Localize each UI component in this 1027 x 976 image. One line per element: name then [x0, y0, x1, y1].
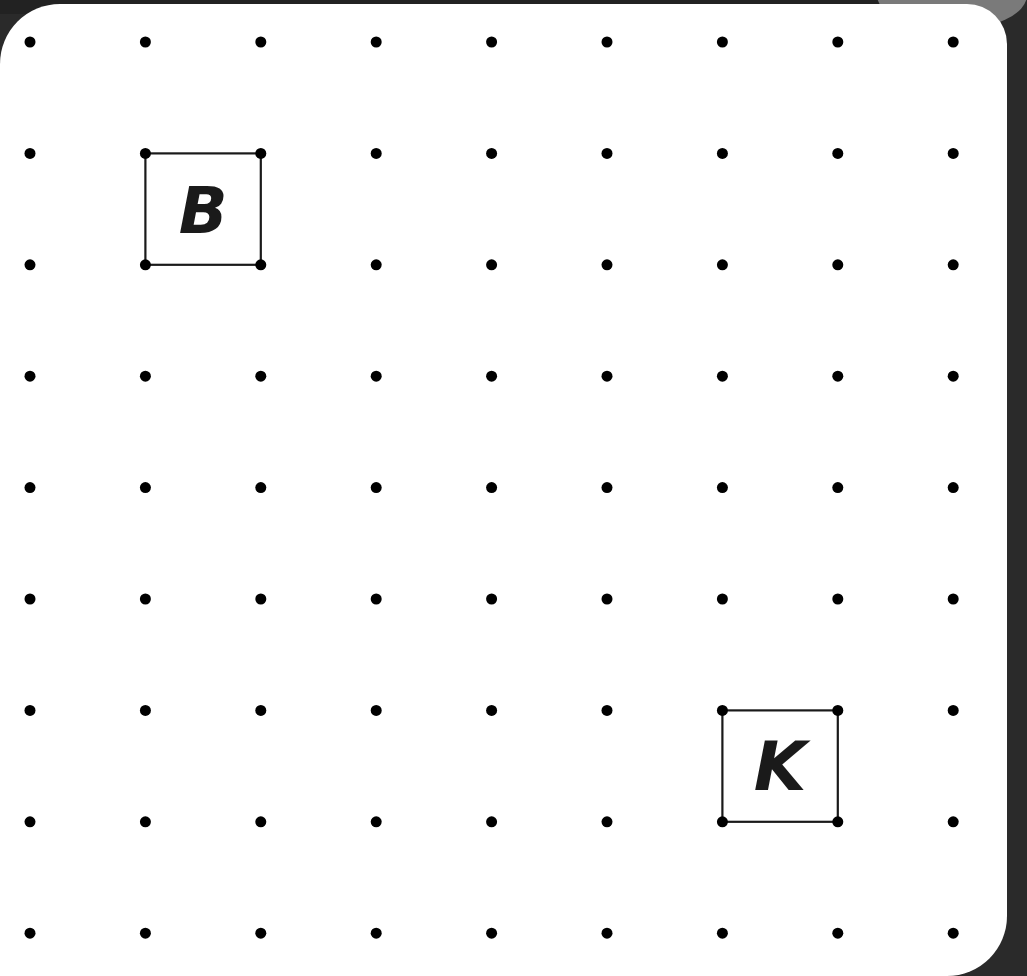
grid-dot[interactable]: [948, 148, 959, 159]
grid-dot[interactable]: [602, 148, 613, 159]
grid-dot[interactable]: [140, 705, 151, 716]
grid-dot[interactable]: [717, 371, 728, 382]
grid-dot[interactable]: [140, 148, 151, 159]
grid-dot[interactable]: [602, 705, 613, 716]
grid-dot[interactable]: [602, 594, 613, 605]
grid-dot[interactable]: [140, 259, 151, 270]
grid-dot[interactable]: [486, 371, 497, 382]
grid-dot[interactable]: [371, 705, 382, 716]
grid-dot[interactable]: [602, 259, 613, 270]
grid-dot[interactable]: [948, 928, 959, 939]
grid-dot[interactable]: [948, 259, 959, 270]
grid-dot[interactable]: [25, 594, 36, 605]
grid-dot[interactable]: [140, 928, 151, 939]
grid-dot[interactable]: [486, 594, 497, 605]
grid-dot[interactable]: [717, 816, 728, 827]
game-board-card: B K: [0, 4, 1007, 976]
grid-dot[interactable]: [255, 928, 266, 939]
grid-dot[interactable]: [717, 259, 728, 270]
grid-dot[interactable]: [486, 705, 497, 716]
grid-dot[interactable]: [832, 482, 843, 493]
grid-dot[interactable]: [832, 928, 843, 939]
grid-dot[interactable]: [832, 37, 843, 48]
grid-dot[interactable]: [832, 371, 843, 382]
grid-dot[interactable]: [371, 482, 382, 493]
grid-dot[interactable]: [948, 594, 959, 605]
grid-dot[interactable]: [717, 594, 728, 605]
grid-dot[interactable]: [602, 482, 613, 493]
grid-dot[interactable]: [371, 148, 382, 159]
grid-dot[interactable]: [486, 37, 497, 48]
grid-dot[interactable]: [832, 816, 843, 827]
grid-dot[interactable]: [717, 37, 728, 48]
grid-dot[interactable]: [832, 705, 843, 716]
grid-dot[interactable]: [371, 37, 382, 48]
grid-dot[interactable]: [255, 705, 266, 716]
grid-dot[interactable]: [486, 259, 497, 270]
grid-dot[interactable]: [25, 37, 36, 48]
grid-dot[interactable]: [25, 482, 36, 493]
grid-dot[interactable]: [948, 37, 959, 48]
grid-dot[interactable]: [140, 594, 151, 605]
grid-dot[interactable]: [371, 816, 382, 827]
grid-dot[interactable]: [948, 816, 959, 827]
grid-dot[interactable]: [602, 816, 613, 827]
grid-dot[interactable]: [486, 928, 497, 939]
grid-dot[interactable]: [25, 148, 36, 159]
grid-dot[interactable]: [948, 705, 959, 716]
grid-dot[interactable]: [832, 148, 843, 159]
grid-dot[interactable]: [832, 594, 843, 605]
grid-dot[interactable]: [602, 37, 613, 48]
grid-dot[interactable]: [255, 37, 266, 48]
grid-dot[interactable]: [948, 371, 959, 382]
square-label-b: B: [179, 174, 228, 248]
grid-dot[interactable]: [140, 482, 151, 493]
grid-dot[interactable]: [717, 705, 728, 716]
grid-dot[interactable]: [602, 371, 613, 382]
grid-dot[interactable]: [140, 371, 151, 382]
grid-dot[interactable]: [371, 259, 382, 270]
grid-dot[interactable]: [832, 259, 843, 270]
grid-dot[interactable]: [371, 594, 382, 605]
square-label-k: K: [754, 727, 811, 806]
grid-dot[interactable]: [25, 928, 36, 939]
grid-dot[interactable]: [486, 482, 497, 493]
grid-dot[interactable]: [25, 371, 36, 382]
grid-dot[interactable]: [25, 259, 36, 270]
grid-dot[interactable]: [255, 594, 266, 605]
grid-dot[interactable]: [602, 928, 613, 939]
grid-dot[interactable]: [371, 928, 382, 939]
grid-dot[interactable]: [255, 816, 266, 827]
grid-dot[interactable]: [140, 37, 151, 48]
grid-dot[interactable]: [948, 482, 959, 493]
grid-dot[interactable]: [255, 371, 266, 382]
grid-dot[interactable]: [717, 482, 728, 493]
grid-dot[interactable]: [717, 928, 728, 939]
grid-dot[interactable]: [717, 148, 728, 159]
grid-dot[interactable]: [25, 705, 36, 716]
dots-layer: [25, 37, 959, 939]
grid-dot[interactable]: [255, 259, 266, 270]
grid-dot[interactable]: [486, 816, 497, 827]
grid-dot[interactable]: [371, 371, 382, 382]
dot-grid-board: B K: [0, 4, 1007, 976]
grid-dot[interactable]: [25, 816, 36, 827]
grid-dot[interactable]: [255, 148, 266, 159]
grid-dot[interactable]: [486, 148, 497, 159]
grid-dot[interactable]: [255, 482, 266, 493]
grid-dot[interactable]: [140, 816, 151, 827]
